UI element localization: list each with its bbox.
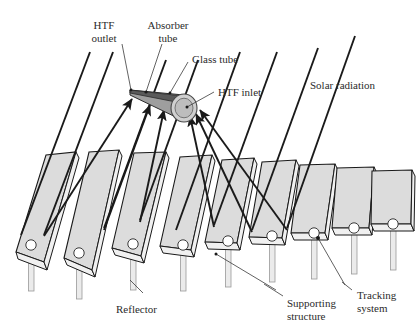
label-absorber-tube-line2: tube (159, 32, 178, 44)
label-tracking-system-line1: Tracking (357, 289, 397, 301)
label-reflector: Reflector (116, 303, 157, 315)
label-htf-outlet-line2: outlet (91, 32, 116, 44)
label-absorber-tube-line1: Absorber (148, 19, 189, 31)
tracking-pivot (74, 248, 84, 258)
absorber-tube-cross-section (175, 98, 193, 118)
label-supporting-structure-line2: structure (287, 310, 326, 322)
tracking-pivot (26, 240, 36, 250)
label-glass-tube: Glass tube (192, 53, 238, 65)
leader-dot (316, 236, 320, 240)
post (352, 230, 358, 274)
tracking-pivot (267, 231, 277, 241)
tracking-pivot (388, 219, 398, 229)
label-tracking-system-line2: system (357, 302, 388, 314)
leader-dot (215, 253, 218, 256)
post (312, 235, 318, 279)
leader-dot (186, 106, 189, 109)
label-htf-outlet-line1: HTF (94, 19, 115, 31)
tracking-pivot (178, 240, 188, 250)
leader-dot (169, 92, 172, 95)
label-solar-radiation: Solar radiation (310, 79, 376, 91)
fresnel-reflector-diagram: HTF outlet Absorber tube Glass tube HTF … (0, 0, 419, 336)
tracking-pivot (223, 236, 233, 246)
post (391, 226, 397, 270)
leader-dot (144, 90, 147, 93)
tracking-pivot (128, 239, 138, 249)
label-supporting-structure-line1: Supporting (287, 297, 336, 309)
label-htf-inlet: HTF inlet (218, 86, 261, 98)
leader-dot (130, 89, 133, 92)
tracking-pivot (349, 223, 359, 233)
